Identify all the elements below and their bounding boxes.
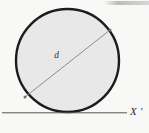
- geometry-figure: d X ': [0, 0, 149, 133]
- circle-shape: [16, 9, 119, 112]
- diameter-label: d: [54, 50, 60, 60]
- diameter-endpoint-lower-left: [24, 96, 27, 99]
- figure-canvas: [0, 0, 149, 133]
- axis-label: X ': [130, 106, 143, 117]
- scan-artifact-band: [104, 1, 149, 5]
- diameter-endpoint-upper-right: [109, 29, 112, 32]
